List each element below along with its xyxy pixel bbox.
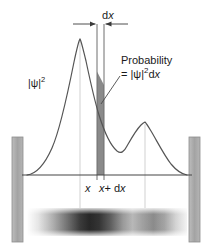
axis-label-x: x xyxy=(85,182,91,194)
left-wall xyxy=(12,137,23,242)
figure-canvas xyxy=(0,0,213,251)
right-wall xyxy=(189,137,200,242)
axis-label-x-plus-dx: x+ dx xyxy=(99,182,126,194)
dx-strip-fill xyxy=(97,72,104,176)
probability-formula-label: = |ψ|2dx xyxy=(121,67,160,80)
dx-strip xyxy=(97,24,104,180)
dx-label: dx xyxy=(102,9,114,21)
probability-label: Probability xyxy=(121,54,172,66)
density-band xyxy=(27,208,187,236)
probability-density-figure: dx |ψ|2 Probability = |ψ|2dx x x+ dx xyxy=(0,0,213,251)
density-band-vertical-fade xyxy=(27,208,187,236)
psi-squared-label: |ψ|2 xyxy=(28,76,45,89)
